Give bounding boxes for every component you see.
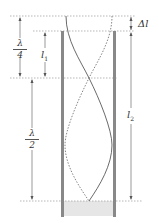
l1-label: l1 (41, 50, 48, 62)
half-wavelength-label: λ 2 (25, 129, 39, 150)
l2-label: l2 (127, 110, 134, 122)
quarter-wavelength-label: λ 4 (13, 39, 27, 60)
water-column (64, 201, 113, 216)
tube-left-wall (61, 31, 64, 217)
resonance-tube-diagram (0, 0, 159, 223)
standing-wave-solid (66, 16, 112, 201)
delta-l-label: Δl (138, 19, 148, 29)
tube-right-wall (113, 31, 116, 217)
